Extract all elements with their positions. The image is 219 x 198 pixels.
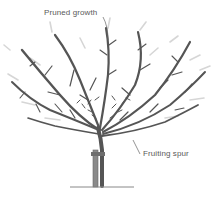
pruned-growth-label: Pruned growth xyxy=(44,8,97,17)
tree-branches xyxy=(12,28,205,186)
fruiting-spur-label: Fruiting spur xyxy=(143,149,189,158)
fruiting-spur-leader-line xyxy=(133,140,140,154)
pruned-tree-diagram: Pruned growth Fruiting spur xyxy=(0,0,219,198)
tree-illustration xyxy=(0,0,219,198)
